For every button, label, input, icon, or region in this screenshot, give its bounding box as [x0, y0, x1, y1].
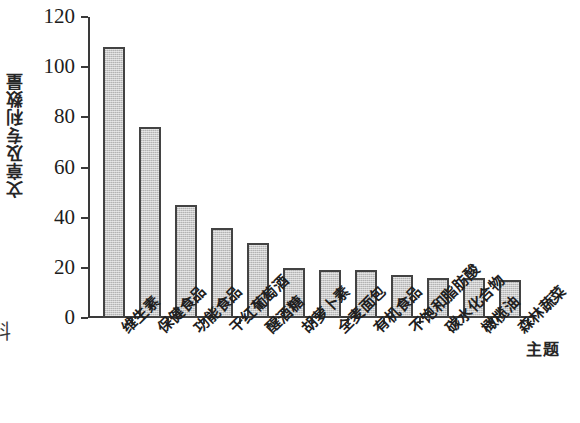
- x-axis-title: 主题: [526, 336, 560, 360]
- y-tick-label: 100: [29, 56, 75, 77]
- y-tick-label: 120: [29, 6, 75, 27]
- y-tick-mark: [81, 16, 88, 18]
- y-tick-label: 0: [29, 307, 75, 328]
- y-tick-label: 80: [29, 106, 75, 127]
- y-tick-label: 40: [29, 207, 75, 228]
- bar: [103, 47, 125, 318]
- y-tick-label: 60: [29, 157, 75, 178]
- bar: [139, 127, 161, 318]
- y-axis-title: 文章及专利数量: [2, 40, 28, 230]
- y-tick-mark: [81, 66, 88, 68]
- caption-fragment-text: 料: [0, 322, 11, 342]
- bar-chart-figure: 料 文章及专利数量 主题 020406080100120 维生素保健食品功能食品…: [0, 0, 580, 423]
- y-tick-label: 20: [29, 257, 75, 278]
- y-tick-mark: [81, 167, 88, 169]
- y-axis-line: [88, 17, 90, 318]
- y-tick-mark: [81, 317, 88, 319]
- y-tick-mark: [81, 116, 88, 118]
- y-tick-mark: [81, 217, 88, 219]
- y-tick-mark: [81, 267, 88, 269]
